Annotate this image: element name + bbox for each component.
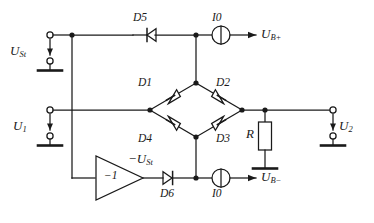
u-b-minus-label: UB− bbox=[261, 170, 281, 184]
d2-label: D2 bbox=[216, 77, 230, 89]
i0-bottom-label: I0 bbox=[212, 188, 222, 200]
i0-top-current-source bbox=[212, 26, 230, 44]
d5-label: D5 bbox=[133, 12, 147, 24]
u-1-label: U1 bbox=[13, 119, 27, 133]
d6-diode bbox=[163, 172, 196, 185]
amp-gain-label: −1 bbox=[104, 170, 118, 182]
u-1-terminal bbox=[38, 107, 150, 146]
d4-diode bbox=[150, 110, 196, 137]
d6-label: D6 bbox=[160, 188, 174, 200]
i0-top-label: I0 bbox=[212, 12, 222, 24]
minus-u-st-label: −USt bbox=[128, 152, 153, 166]
d1-diode bbox=[150, 83, 196, 110]
resistor-label: R bbox=[246, 127, 254, 140]
circuit-diagram: USt U1 U2 UB+ UB− D5 I0 D1 D2 D4 D3 R −1… bbox=[0, 0, 374, 223]
d3-label: D3 bbox=[216, 133, 230, 145]
d1-label: D1 bbox=[138, 77, 152, 89]
i0-bottom-current-source bbox=[212, 169, 230, 187]
u-st-label: USt bbox=[10, 44, 26, 58]
d4-label: D4 bbox=[138, 133, 152, 145]
u-b-plus-label: UB+ bbox=[261, 27, 281, 41]
node-bridge-left bbox=[147, 107, 152, 112]
node-bridge-top bbox=[193, 80, 198, 85]
u-st-terminal bbox=[38, 32, 72, 71]
d5-diode bbox=[133, 29, 156, 42]
resistor-r bbox=[253, 110, 277, 169]
schematic-canvas bbox=[0, 0, 374, 223]
u-2-label: U2 bbox=[339, 119, 353, 133]
diode-bridge bbox=[147, 80, 244, 139]
